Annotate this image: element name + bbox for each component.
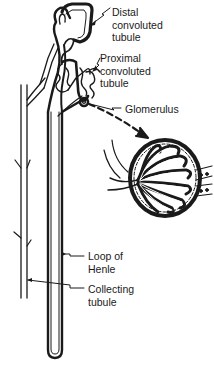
leader-lines xyxy=(28,8,121,288)
label-line: tubule xyxy=(100,77,151,90)
glomerulus-enlarged-shape xyxy=(104,140,212,216)
label-distal-convoluted-tubule: Distal convoluted tubule xyxy=(112,6,163,44)
loop-of-henle-shape xyxy=(48,22,65,358)
label-line: Distal xyxy=(112,6,163,19)
label-line: Loop of xyxy=(88,250,123,263)
label-glomerulus: Glomerulus xyxy=(125,103,179,116)
glomerulus-small-shape xyxy=(80,98,88,106)
label-line: tubule xyxy=(88,296,134,309)
label-loop-of-henle: Loop of Henle xyxy=(88,250,123,275)
label-line: Glomerulus xyxy=(125,103,179,116)
label-proximal-convoluted-tubule: Proximal convoluted tubule xyxy=(100,52,151,90)
label-line: Henle xyxy=(88,263,123,276)
label-collecting-tubule: Collecting tubule xyxy=(88,283,134,308)
label-line: convoluted xyxy=(100,65,151,78)
label-line: convoluted xyxy=(112,19,163,32)
label-line: Proximal xyxy=(100,52,151,65)
label-line: Collecting xyxy=(88,283,134,296)
label-line: tubule xyxy=(112,31,163,44)
